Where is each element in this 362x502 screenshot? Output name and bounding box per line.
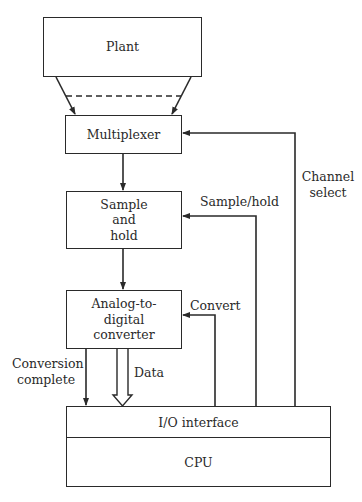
channel-select-line bbox=[183, 133, 295, 406]
diagram-canvas: Plant Multiplexer Sample and hold Analog… bbox=[0, 0, 362, 502]
plant-to-mux-left-arrow bbox=[56, 77, 75, 114]
sample-hold-block: Sample and hold bbox=[66, 191, 182, 249]
cpu-block: CPU bbox=[67, 438, 330, 486]
channel-select-line-1: Channel bbox=[300, 169, 356, 185]
sample-hold-signal-label: Sample/hold bbox=[200, 194, 279, 210]
channel-select-label: Channel select bbox=[300, 169, 356, 200]
conversion-complete-line-2: complete bbox=[12, 372, 80, 388]
adc-line-1: Analog-to- bbox=[91, 296, 156, 312]
plant-to-mux-right-arrow bbox=[172, 77, 191, 114]
data-signal-label: Data bbox=[134, 365, 164, 381]
plant-label: Plant bbox=[106, 39, 139, 55]
io-cpu-block: I/O interface CPU bbox=[66, 406, 331, 487]
plant-block: Plant bbox=[43, 17, 202, 77]
adc-line-2: digital bbox=[91, 312, 156, 328]
io-interface-block: I/O interface bbox=[67, 407, 330, 438]
conversion-complete-line-1: Conversion bbox=[12, 356, 80, 372]
channel-select-line-2: select bbox=[300, 185, 356, 201]
convert-line bbox=[183, 315, 215, 406]
sample-hold-line-1: Sample bbox=[100, 197, 147, 213]
convert-signal-label: Convert bbox=[190, 298, 241, 314]
cpu-label: CPU bbox=[184, 455, 212, 470]
data-bus-arrow bbox=[113, 349, 132, 406]
sample-hold-line-2: and bbox=[100, 212, 147, 228]
multiplexer-label: Multiplexer bbox=[87, 127, 161, 143]
sample-hold-line-3: hold bbox=[100, 228, 147, 244]
adc-block: Analog-to- digital converter bbox=[66, 290, 182, 349]
multiplexer-block: Multiplexer bbox=[65, 115, 182, 154]
io-interface-label: I/O interface bbox=[158, 415, 238, 430]
conversion-complete-label: Conversion complete bbox=[12, 356, 80, 387]
adc-line-3: converter bbox=[91, 327, 156, 343]
